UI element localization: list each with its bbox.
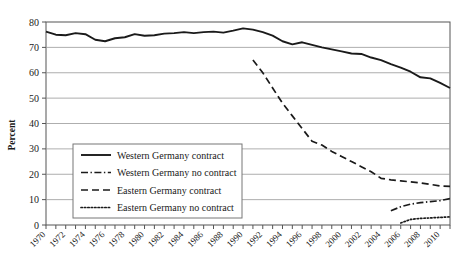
x-tick-label: 1982 [146,229,166,249]
x-tick-marks [46,225,450,229]
x-tick-label: 1996 [284,229,304,249]
y-tick-label: 70 [29,42,39,53]
x-tick-label: 2008 [402,229,422,249]
x-tick-label: 1994 [264,229,284,249]
y-tick-label: 50 [29,93,39,104]
x-tick-label: 1980 [126,229,146,249]
chart-container: 01020304050607080 1970197219741976197819… [0,0,462,267]
y-axis-title-text: Percent [7,119,17,151]
y-tick-label: 60 [29,67,39,78]
legend-label-0: Western Germany contract [117,150,224,161]
x-tick-label: 1986 [185,229,205,249]
y-tick-label: 40 [29,118,39,129]
y-axis-title: Percent [7,119,17,151]
legend-label-3: Eastern Germany no contract [117,202,234,213]
legend-label-2: Eastern Germany contract [117,185,222,196]
x-tick-label: 1988 [205,229,225,249]
y-tick-label: 80 [29,17,39,28]
x-tick-label: 2010 [422,229,442,249]
x-axis-labels: 1970197219741976197819801982198419861988… [28,229,442,249]
y-tick-label: 10 [29,194,39,205]
y-tick-label: 20 [29,169,39,180]
x-tick-label: 1998 [304,229,324,249]
y-tick-label: 30 [29,143,39,154]
x-tick-label: 1984 [166,229,186,249]
x-tick-label: 1972 [47,229,67,249]
x-tick-label: 1976 [87,229,107,249]
x-tick-label: 1978 [106,229,126,249]
x-tick-label: 2000 [323,229,343,249]
y-axis-labels: 01020304050607080 [29,17,39,231]
x-tick-label: 2006 [382,229,402,249]
x-tick-label: 2004 [363,229,383,249]
legend-label-1: Western Germany no contract [117,167,237,178]
x-tick-label: 1992 [244,229,264,249]
line-chart: 01020304050607080 1970197219741976197819… [0,0,462,267]
y-tick-label: 0 [34,220,39,231]
x-tick-label: 1990 [225,229,245,249]
y-tick-marks [42,22,46,225]
x-tick-label: 1970 [28,229,48,249]
x-tick-label: 2002 [343,229,363,249]
x-tick-label: 1974 [67,229,87,249]
legend: Western Germany contractWestern Germany … [73,144,242,218]
